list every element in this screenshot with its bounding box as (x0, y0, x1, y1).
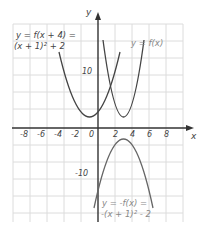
origin-label: 0 (89, 130, 94, 139)
curve-f-x (103, 40, 144, 117)
svg-text:6: 6 (147, 130, 152, 139)
y-tick-neg10: -10 (75, 169, 88, 178)
y-tick-10: 10 (82, 67, 92, 76)
svg-text:2: 2 (113, 130, 118, 139)
y-axis-arrow-icon (95, 12, 101, 20)
svg-text:8: 8 (164, 130, 169, 139)
label-f-x: y = f(x) (130, 38, 163, 48)
label-f-x-plus-4-line1: y = f(x + 4) = (15, 30, 76, 40)
label-neg-f-x-line1: y = -f(x) = (101, 198, 147, 208)
svg-text:-8: -8 (20, 130, 28, 139)
y-axis-label: y (85, 7, 92, 17)
svg-text:-2: -2 (71, 130, 79, 139)
x-tick-labels: -8 -6 -4 -2 2 4 6 8 (20, 130, 169, 139)
curve-f-x-plus-4 (59, 52, 120, 117)
label-f-x-plus-4-line2: (x + 1)² + 2 (14, 41, 65, 51)
svg-text:-6: -6 (37, 130, 45, 139)
svg-text:4: 4 (130, 130, 135, 139)
x-axis-label: x (190, 131, 197, 141)
label-neg-f-x-line2: -(x + 1)² - 2 (101, 209, 151, 219)
svg-text:-4: -4 (54, 130, 62, 139)
graph: y x 0 10 -10 -8 -6 -4 -2 2 4 6 8 y = f(x… (0, 0, 206, 226)
